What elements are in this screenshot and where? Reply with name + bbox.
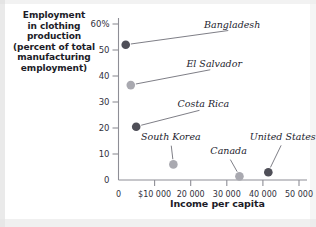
data-point-label-costa-rica: Costa Rica xyxy=(178,98,230,109)
chart-canvas: 0102030405060%0$10 00020 00030 00040 000… xyxy=(0,0,316,227)
point-leader-line xyxy=(136,70,210,84)
data-point-canada[interactable] xyxy=(235,172,244,181)
data-point-label-canada: Canada xyxy=(210,145,247,156)
y-tick-label: 10 xyxy=(99,149,110,159)
point-leader-line xyxy=(171,146,173,160)
y-tick-label: 30 xyxy=(99,97,110,107)
scatter-plot: 0102030405060%0$10 00020 00030 00040 000… xyxy=(0,0,316,227)
y-tick-label: 0 xyxy=(104,175,109,185)
y-tick-label: 60% xyxy=(91,19,110,29)
x-tick-label: 0 xyxy=(116,190,121,199)
figure-container: Employment in clothing production (perce… xyxy=(0,0,316,227)
data-point-bangladesh[interactable] xyxy=(121,41,130,50)
data-point-united-states[interactable] xyxy=(264,168,273,177)
point-leader-line xyxy=(131,31,228,44)
point-leader-line xyxy=(230,160,237,172)
data-point-costa-rica[interactable] xyxy=(132,122,141,131)
data-point-label-united-states: United States xyxy=(250,131,316,142)
y-tick-label: 20 xyxy=(99,123,110,133)
data-point-south-korea[interactable] xyxy=(169,160,178,169)
point-leader-line xyxy=(270,145,281,167)
data-point-el-salvador[interactable] xyxy=(126,81,135,90)
data-point-label-el-salvador: El Salvador xyxy=(185,58,243,69)
y-tick-label: 40 xyxy=(99,71,110,81)
x-tick-label: 50 000 xyxy=(285,190,313,199)
data-point-label-bangladesh: Bangladesh xyxy=(203,19,260,30)
data-point-label-south-korea: South Korea xyxy=(141,131,201,142)
x-axis-caption: Income per capita xyxy=(170,198,265,209)
x-tick-label: $10 000 xyxy=(138,190,171,199)
y-tick-label: 50 xyxy=(99,45,110,55)
point-leader-line xyxy=(141,110,199,125)
